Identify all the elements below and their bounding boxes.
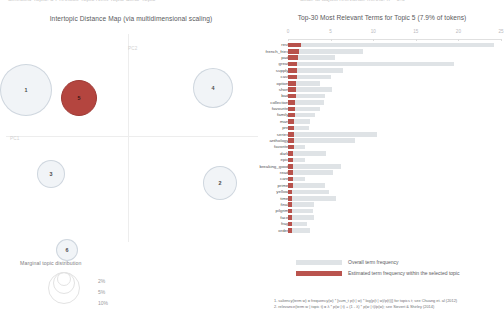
x-tick-label: 5	[329, 29, 332, 34]
bar-within-topic-frequency[interactable]	[288, 119, 294, 124]
topic-bubble-label: 6	[66, 247, 69, 253]
topic-bubble-4[interactable]: 4	[193, 68, 233, 108]
x-tick-label: 0	[287, 29, 290, 34]
bar-within-topic-frequency[interactable]	[288, 170, 293, 175]
bar-within-topic-frequency[interactable]	[288, 43, 301, 48]
bar-within-topic-frequency[interactable]	[288, 126, 294, 131]
intertopic-map-plot[interactable]: PC2 PC1 154326	[0, 28, 262, 258]
bar-within-topic-frequency[interactable]	[288, 75, 297, 80]
bar-within-topic-frequency[interactable]	[288, 68, 297, 73]
term-label[interactable]: pilgrim	[276, 208, 289, 214]
term-label[interactable]: anthology	[269, 138, 288, 144]
bar-overall-frequency[interactable]	[288, 138, 355, 143]
term-label[interactable]: favourite	[272, 106, 289, 112]
term-label[interactable]: great	[278, 61, 288, 67]
bar-overall-frequency[interactable]	[288, 43, 494, 48]
bar-overall-frequency[interactable]	[288, 151, 326, 156]
marginal-size-label: 2%	[98, 278, 105, 284]
barchart-rows: restfrench_friespadgreatsupplycastoption…	[262, 42, 502, 234]
bar-overall-frequency[interactable]	[288, 183, 325, 188]
topic-bubble-3[interactable]: 3	[37, 160, 65, 188]
x-tick	[288, 39, 289, 41]
bar-within-topic-frequency[interactable]	[288, 158, 293, 163]
bar-overall-frequency[interactable]	[288, 132, 377, 137]
top-terms-barchart: 0510152025 restfrench_friespadgreatsuppl…	[262, 28, 502, 250]
term-label[interactable]: french_fries	[266, 49, 289, 55]
term-label[interactable]: breaking_good	[259, 164, 288, 170]
top-terms-panel: Top-30 Most Relevant Terms for Topic 5 (…	[262, 10, 502, 310]
bar-within-topic-frequency[interactable]	[288, 113, 295, 118]
toolbar-clipped-strip: Selected Topic: 5 Previous Topic Next To…	[0, 0, 502, 9]
bar-within-topic-frequency[interactable]	[288, 49, 299, 54]
topic-bubble-label: 4	[212, 85, 215, 91]
map-axis-label-pc2: PC2	[128, 46, 138, 51]
term-row[interactable]: order	[262, 227, 502, 233]
bar-within-topic-frequency[interactable]	[288, 145, 294, 150]
bar-within-topic-frequency[interactable]	[288, 222, 292, 227]
topic-bubble-5[interactable]: 5	[61, 80, 97, 116]
bar-within-topic-frequency[interactable]	[288, 183, 293, 188]
bar-within-topic-frequency[interactable]	[288, 107, 295, 112]
bar-within-topic-frequency[interactable]	[288, 164, 293, 169]
x-tick	[416, 39, 417, 41]
term-label[interactable]: option	[277, 81, 289, 87]
term-label[interactable]: prime	[278, 183, 289, 189]
map-x-axis	[6, 136, 258, 137]
marginal-size-circle-10pct	[48, 272, 80, 304]
marginal-size-label: 5%	[98, 289, 105, 295]
intertopic-distance-map-panel: Intertopic Distance Map (via multidimens…	[0, 10, 262, 310]
term-label[interactable]: yellow	[276, 189, 288, 195]
marginal-topic-distribution-label: Marginal topic distribution	[20, 260, 82, 266]
bar-within-topic-frequency[interactable]	[288, 81, 296, 86]
bar-within-topic-frequency[interactable]	[288, 177, 293, 182]
bar-within-topic-frequency[interactable]	[288, 132, 294, 137]
bar-within-topic-frequency[interactable]	[288, 228, 292, 233]
bar-within-topic-frequency[interactable]	[288, 87, 296, 92]
bar-overall-frequency[interactable]	[288, 49, 363, 54]
bar-within-topic-frequency[interactable]	[288, 209, 292, 214]
footnote-relevance: 2. relevance(term w | topic t) = λ * p(w…	[274, 304, 502, 310]
topic-bubble-label: 1	[25, 87, 28, 93]
bar-overall-frequency[interactable]	[288, 164, 341, 169]
bar-within-topic-frequency[interactable]	[288, 55, 298, 60]
barchart-x-axis	[288, 39, 501, 40]
term-label[interactable]: supply	[276, 68, 289, 74]
bar-within-topic-frequency[interactable]	[288, 196, 292, 201]
formula-footnotes: 1. saliency(term w) = frequency(w) * [su…	[274, 298, 502, 310]
bar-overall-frequency[interactable]	[288, 190, 329, 195]
term-label[interactable]: order	[278, 228, 288, 234]
topic-bubble-2[interactable]: 2	[203, 166, 237, 200]
x-tick	[501, 39, 502, 41]
x-tick-label: 15	[413, 29, 418, 34]
term-label[interactable]: collection	[270, 100, 288, 106]
bar-within-topic-frequency[interactable]	[288, 202, 292, 207]
x-tick-label: 20	[456, 29, 461, 34]
intertopic-map-title: Intertopic Distance Map (via multidimens…	[38, 15, 224, 22]
term-label[interactable]: favorite	[274, 144, 288, 150]
relevance-slider-fragment[interactable]: Slide to adjust relevance metric: λ = 0.…	[300, 0, 405, 2]
bar-overall-frequency[interactable]	[288, 170, 333, 175]
legend-swatch-within-topic	[296, 271, 342, 276]
topic-bubble-1[interactable]: 1	[0, 64, 52, 116]
bar-within-topic-frequency[interactable]	[288, 100, 295, 105]
bar-within-topic-frequency[interactable]	[288, 215, 292, 220]
term-label[interactable]: family	[277, 112, 288, 118]
bar-within-topic-frequency[interactable]	[288, 94, 296, 99]
term-label[interactable]: series	[277, 132, 289, 138]
x-tick-label: 10	[371, 29, 376, 34]
x-tick	[331, 39, 332, 41]
topic-selector-fragment[interactable]: Selected Topic: 5 Previous Topic Next To…	[8, 0, 155, 2]
bar-within-topic-frequency[interactable]	[288, 190, 292, 195]
bar-within-topic-frequency[interactable]	[288, 151, 293, 156]
x-tick	[458, 39, 459, 41]
topic-bubble-label: 3	[50, 171, 53, 177]
bar-overall-frequency[interactable]	[288, 62, 454, 67]
bar-within-topic-frequency[interactable]	[288, 138, 294, 143]
bar-within-topic-frequency[interactable]	[288, 62, 297, 67]
bar-overall-frequency[interactable]	[288, 196, 336, 201]
top-terms-title: Top-30 Most Relevant Terms for Topic 5 (…	[262, 14, 502, 21]
topic-bubble-6[interactable]: 6	[56, 239, 78, 261]
topic-bubble-label: 5	[78, 95, 81, 101]
legend-label-within-topic: Estimated term frequency within the sele…	[348, 270, 459, 276]
